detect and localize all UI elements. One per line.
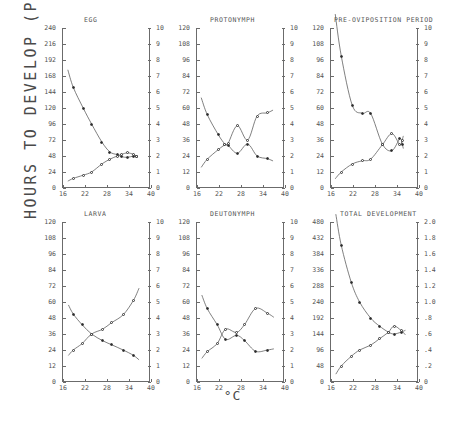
y-ticklabel-left: 480	[304, 219, 324, 226]
y-ticklabel-left: 108	[170, 235, 190, 242]
y-ticklabel-left: 72	[170, 89, 190, 96]
y-ticklabel-left: 0	[36, 379, 56, 386]
y-tick-right	[148, 382, 151, 383]
x-ticklabel: 16	[188, 191, 206, 198]
y-ticklabel-left: 108	[304, 41, 324, 48]
y-ticklabel-right: 10	[424, 25, 440, 32]
plot-area-preoviposition: 0122436486072849610812001234567891016222…	[330, 28, 418, 188]
y-ticklabel-left: 192	[304, 315, 324, 322]
x-ticklabel: 40	[142, 385, 160, 392]
data-point	[351, 163, 354, 166]
data-point	[132, 354, 135, 357]
y-ticklabel-left: 36	[170, 331, 190, 338]
x-tick	[285, 379, 286, 382]
data-point	[101, 328, 104, 331]
y-ticklabel-left: 120	[170, 219, 190, 226]
data-point	[72, 349, 75, 352]
data-point	[81, 323, 84, 326]
data-point	[361, 112, 364, 115]
plot-area-deutonymph: 0122436486072849610812001234567891016222…	[196, 222, 284, 382]
curve-hours	[68, 305, 139, 360]
y-ticklabel-right: .6	[424, 331, 440, 338]
y-ticklabel-left: 336	[304, 267, 324, 274]
x-ticklabel: 34	[120, 191, 138, 198]
x-ticklabel: 16	[188, 385, 206, 392]
y-ticklabel-left: 168	[36, 73, 56, 80]
y-ticklabel-left: 72	[36, 283, 56, 290]
x-ticklabel: 16	[54, 385, 72, 392]
y-ticklabel-left: 120	[36, 219, 56, 226]
x-ticklabel: 40	[410, 191, 428, 198]
y-ticklabel-right: 7	[424, 73, 440, 80]
data-point	[217, 133, 220, 136]
y-ticklabel-left: 24	[36, 347, 56, 354]
y-tick-right	[282, 382, 285, 383]
figure-root: HOURS TO DEVELOP (P) °C EGG0244872961201…	[0, 0, 465, 423]
y-ticklabel-left: 240	[304, 299, 324, 306]
y-ticklabel-left: 72	[36, 137, 56, 144]
x-ticklabel: 34	[388, 385, 406, 392]
x-ticklabel: 22	[210, 385, 228, 392]
y-ticklabel-left: 96	[36, 251, 56, 258]
x-ticklabel: 28	[232, 191, 250, 198]
data-point	[340, 244, 343, 247]
y-ticklabel-left: 60	[170, 299, 190, 306]
plot-area-egg: 0244872961201441681922162400123456789101…	[62, 28, 150, 188]
x-tick	[285, 185, 286, 188]
x-ticklabel: 40	[276, 191, 294, 198]
y-ticklabel-left: 84	[170, 73, 190, 80]
panel-preoviposition: PRE-OVIPOSITION PERIOD012243648607284961…	[330, 18, 418, 202]
x-tick	[419, 185, 420, 188]
data-point	[217, 148, 220, 151]
data-point	[132, 299, 135, 302]
data-point	[81, 342, 84, 345]
y-tick-left	[197, 188, 200, 189]
x-ticklabel: 28	[98, 385, 116, 392]
y-tick-right	[148, 188, 151, 189]
data-point	[116, 155, 119, 158]
data-point	[358, 349, 361, 352]
data-point	[256, 115, 259, 118]
y-ticklabel-left: 24	[36, 169, 56, 176]
data-point	[266, 349, 269, 352]
x-ticklabel: 22	[76, 385, 94, 392]
data-point	[82, 107, 85, 110]
data-point	[340, 55, 343, 58]
panel-title-total: TOTAL DEVELOPMENT	[340, 210, 417, 218]
data-point	[254, 350, 257, 353]
panel-larva: LARVA01224364860728496108120012345678910…	[62, 212, 150, 396]
x-ticklabel: 34	[388, 191, 406, 198]
y-tick-right	[282, 188, 285, 189]
data-point	[235, 331, 238, 334]
x-tick	[419, 379, 420, 382]
y-tick-left	[63, 188, 66, 189]
data-point	[369, 317, 372, 320]
data-point	[224, 328, 227, 331]
y-ticklabel-left: 120	[170, 25, 190, 32]
panel-protonymph: PROTONYMPH012243648607284961081200123456…	[196, 18, 284, 202]
curve-hours	[202, 295, 274, 352]
plot-area-protonymph: 0122436486072849610812001234567891016222…	[196, 28, 284, 188]
y-ticklabel-left: 0	[170, 185, 190, 192]
x-ticklabel: 28	[232, 385, 250, 392]
y-ticklabel-left: 0	[36, 185, 56, 192]
y-ticklabel-left: 84	[304, 73, 324, 80]
x-ticklabel: 40	[410, 385, 428, 392]
y-ticklabel-right: .8	[424, 315, 440, 322]
y-ticklabel-left: 48	[304, 121, 324, 128]
fitted-curves-egg	[63, 28, 151, 188]
data-point	[387, 331, 390, 334]
y-ticklabel-right: 2.0	[424, 219, 440, 226]
fitted-curves-deutonymph	[197, 222, 285, 382]
y-ticklabel-right: 6	[424, 89, 440, 96]
curve-rate	[201, 110, 273, 167]
data-point	[256, 155, 259, 158]
y-tick-right	[416, 188, 419, 189]
y-tick-left	[331, 188, 334, 189]
data-point	[266, 312, 269, 315]
y-ticklabel-left: 12	[170, 169, 190, 176]
y-ticklabel-left: 96	[170, 57, 190, 64]
data-point	[224, 338, 227, 341]
y-ticklabel-left: 60	[36, 299, 56, 306]
data-point	[135, 155, 138, 158]
